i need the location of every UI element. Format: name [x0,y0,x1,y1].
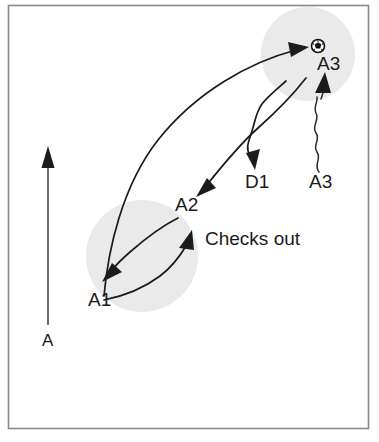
node-label-a1: A1 [88,290,111,309]
node-label-a3-ball: A3 [317,54,340,73]
axis-label-direction: A [42,332,53,349]
shaded-zone-icon-upper [261,7,355,101]
node-label-a2: A2 [175,195,198,214]
diagram-canvas: A1 A2 A3 D1 A3 A Checks out [0,0,379,442]
annotation-checks-out: Checks out [205,229,300,248]
node-label-d1: D1 [245,172,269,191]
node-label-a3-run: A3 [309,172,332,191]
soccer-ball-icon [312,40,325,53]
